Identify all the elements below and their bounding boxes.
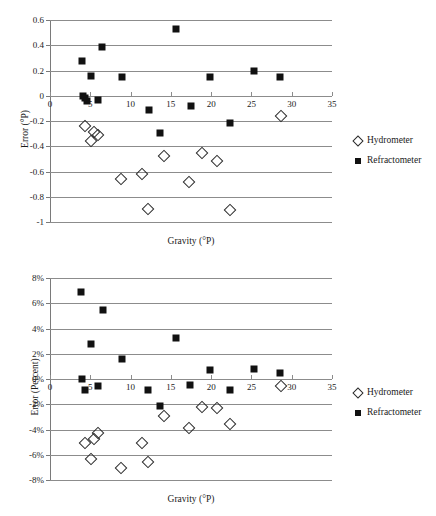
y-axis-tick-label: 0.2 (33, 66, 44, 75)
y-axis-tick-label: 8% (32, 274, 44, 283)
y-axis-tick (46, 197, 50, 198)
x-axis-tick-label: 10 (126, 383, 135, 392)
data-point-refractometer (172, 26, 179, 33)
gridline (50, 329, 332, 330)
y-axis-tick (46, 146, 50, 147)
data-point-hydrometer (158, 149, 171, 162)
y-axis-tick-label: -0.8 (30, 192, 44, 201)
data-point-hydrometer (142, 456, 155, 469)
y-axis-tick (46, 430, 50, 431)
x-axis-tick-label: 20 (207, 100, 216, 109)
data-point-refractometer (277, 369, 284, 376)
data-point-refractometer (95, 97, 102, 104)
y-axis-tick-label: 0 (40, 91, 45, 100)
data-point-hydrometer (135, 168, 148, 181)
data-point-refractometer (79, 58, 86, 65)
y-axis-tick-label: 0.6 (33, 16, 44, 25)
gridline (50, 45, 332, 46)
data-point-hydrometer (135, 436, 148, 449)
x-axis-tick (332, 92, 333, 96)
legend-label-refractometer: Refractometer (367, 407, 421, 417)
data-point-refractometer (118, 355, 125, 362)
y-axis-tick-label: -0.2 (30, 117, 44, 126)
x-axis-tick (292, 92, 293, 96)
x-axis-tick (90, 375, 91, 379)
data-point-refractometer (172, 334, 179, 341)
gridline (50, 20, 332, 21)
x-axis-tick (251, 92, 252, 96)
data-point-refractometer (157, 129, 164, 136)
data-point-refractometer (227, 119, 234, 126)
plot-area-top: -1-0.8-0.6-0.4-0.200.20.40.6051015202530… (50, 20, 332, 222)
x-axis-tick (171, 375, 172, 379)
data-point-refractometer (157, 402, 164, 409)
legend-bottom: Hydrometer Refractometer (352, 382, 421, 422)
data-point-hydrometer (196, 147, 209, 160)
data-point-hydrometer (158, 410, 171, 423)
data-point-refractometer (100, 307, 107, 314)
x-axis-tick (131, 375, 132, 379)
data-point-refractometer (188, 103, 195, 110)
figure-page: Error (°P) -1-0.8-0.6-0.4-0.200.20.40.60… (0, 0, 436, 516)
legend-item-hydrometer: Hydrometer (352, 382, 421, 402)
legend-item-refractometer: Refractometer (352, 402, 421, 422)
plot-area-bottom: -8%-6%-4%-2%0%2%4%6%8%05101520253035 (50, 278, 332, 480)
data-point-refractometer (250, 67, 257, 74)
data-point-refractometer (227, 387, 234, 394)
y-axis-tick (46, 222, 50, 223)
gridline (50, 379, 332, 380)
x-axis-tick (332, 375, 333, 379)
gridline (50, 354, 332, 355)
x-axis-tick-label: 25 (247, 100, 256, 109)
data-point-refractometer (250, 365, 257, 372)
y-axis-tick-label: 4% (32, 324, 44, 333)
gridline (50, 172, 332, 173)
data-point-refractometer (88, 340, 95, 347)
gridline (50, 222, 332, 223)
data-point-refractometer (84, 98, 91, 105)
y-axis-tick (46, 455, 50, 456)
data-point-refractometer (187, 382, 194, 389)
x-axis-tick-label: 25 (247, 383, 256, 392)
x-axis-tick-label: 15 (166, 383, 175, 392)
diamond-icon (352, 387, 363, 397)
x-axis-tick-label: 30 (287, 383, 296, 392)
x-axis-tick (50, 375, 51, 379)
y-axis-tick-label: -0.6 (30, 167, 44, 176)
y-axis-tick (46, 71, 50, 72)
gridline (50, 197, 332, 198)
data-point-refractometer (207, 74, 214, 81)
gridline (50, 404, 332, 405)
y-axis-tick-label: -4% (29, 425, 44, 434)
x-axis-tick-label: 0 (48, 383, 53, 392)
x-axis-tick (131, 92, 132, 96)
data-point-refractometer (82, 386, 89, 393)
scatter-chart-error-percent: Error (Percent) -8%-6%-4%-2%0%2%4%6%8%05… (0, 258, 436, 516)
gridline (50, 71, 332, 72)
legend-label-hydrometer: Hydrometer (367, 387, 413, 397)
x-axis-tick-label: 30 (287, 100, 296, 109)
x-axis-tick (50, 92, 51, 96)
data-point-refractometer (88, 73, 95, 80)
x-axis-title-bottom: Gravity (°P) (50, 494, 332, 504)
data-point-refractometer (79, 376, 86, 383)
x-axis-tick (251, 375, 252, 379)
gridline (50, 96, 332, 97)
gridline (50, 278, 332, 279)
x-axis-tick (90, 92, 91, 96)
x-axis-tick (292, 375, 293, 379)
data-point-hydrometer (115, 173, 128, 186)
data-point-refractometer (145, 387, 152, 394)
data-point-refractometer (146, 107, 153, 114)
y-axis-tick (46, 121, 50, 122)
x-axis-tick-label: 15 (166, 100, 175, 109)
data-point-hydrometer (210, 154, 223, 167)
x-axis-tick-label: 10 (126, 100, 135, 109)
y-axis-tick-label: -2% (29, 400, 44, 409)
y-axis-tick (46, 278, 50, 279)
y-axis-tick-label: -8% (29, 476, 44, 485)
y-axis-tick (46, 354, 50, 355)
legend-item-refractometer: Refractometer (352, 150, 421, 170)
square-icon (352, 155, 363, 165)
y-axis-title-top: Error (°P) (20, 110, 30, 148)
